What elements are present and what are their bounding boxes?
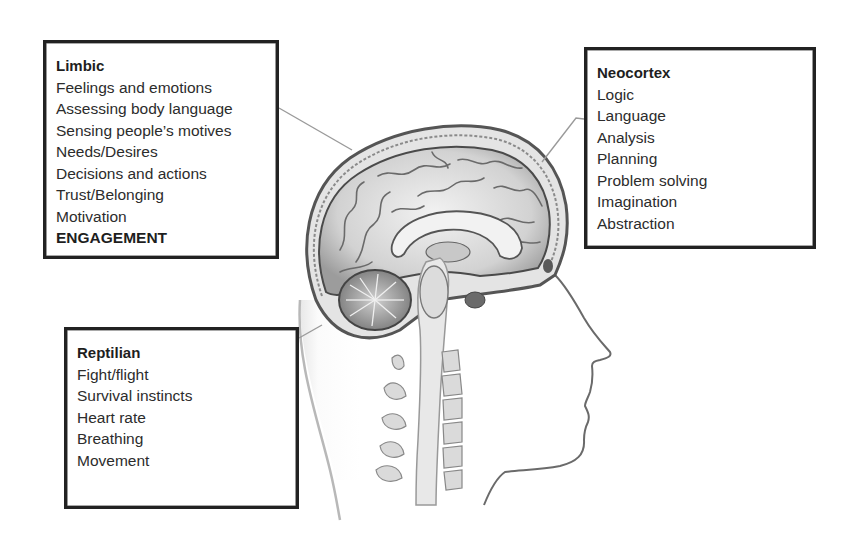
limbic-item: Needs/Desires bbox=[56, 141, 266, 163]
limbic-function-list: Feelings and emotions Assessing body lan… bbox=[56, 77, 266, 249]
limbic-title: Limbic bbox=[56, 55, 266, 77]
neocortex-label-box: Neocortex Logic Language Analysis Planni… bbox=[584, 47, 816, 249]
limbic-item: Motivation bbox=[56, 206, 266, 228]
neocortex-function-list: Logic Language Analysis Planning Problem… bbox=[597, 84, 803, 235]
neocortex-title: Neocortex bbox=[597, 62, 803, 84]
cerebellum bbox=[339, 270, 411, 330]
neocortex-item: Abstraction bbox=[597, 213, 803, 235]
neocortex-item: Planning bbox=[597, 148, 803, 170]
reptilian-label-box: Reptilian Fight/flight Survival instinct… bbox=[64, 327, 299, 509]
limbic-connector bbox=[279, 108, 352, 150]
face-profile bbox=[484, 275, 611, 505]
reptilian-title: Reptilian bbox=[77, 342, 286, 364]
limbic-item: Feelings and emotions bbox=[56, 77, 266, 99]
reptilian-item: Breathing bbox=[77, 428, 286, 450]
reptilian-item: Heart rate bbox=[77, 407, 286, 429]
neocortex-item: Language bbox=[597, 105, 803, 127]
neocortex-connector bbox=[542, 118, 584, 162]
limbic-label-box: Limbic Feelings and emotions Assessing b… bbox=[43, 40, 279, 259]
limbic-item: Sensing people’s motives bbox=[56, 120, 266, 142]
limbic-item: Decisions and actions bbox=[56, 163, 266, 185]
reptilian-item: Survival instincts bbox=[77, 385, 286, 407]
limbic-item: Assessing body language bbox=[56, 98, 266, 120]
neocortex-item: Imagination bbox=[597, 191, 803, 213]
limbic-emphasis: ENGAGEMENT bbox=[56, 227, 266, 249]
reptilian-item: Movement bbox=[77, 450, 286, 472]
reptilian-item: Fight/flight bbox=[77, 364, 286, 386]
neocortex-item: Problem solving bbox=[597, 170, 803, 192]
neocortex-item: Analysis bbox=[597, 127, 803, 149]
neocortex-item: Logic bbox=[597, 84, 803, 106]
limbic-item: Trust/Belonging bbox=[56, 184, 266, 206]
reptilian-function-list: Fight/flight Survival instincts Heart ra… bbox=[77, 364, 286, 472]
